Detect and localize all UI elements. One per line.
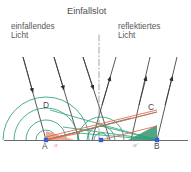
point-label-a: A (42, 142, 48, 151)
reflected-light-label: reflektiertes Licht (118, 22, 160, 40)
incident-ray-1-arrow (23, 57, 33, 91)
reflected-light-line2: Licht (118, 31, 135, 40)
reflected-ray-2-arrow (139, 78, 146, 105)
incident-light-line2: Licht (11, 31, 28, 40)
incident-light-label: einfallendes Licht (11, 22, 55, 40)
point-label-b: B (154, 142, 160, 151)
optics-diagram-figure: Einfallslot einfallendes Licht reflektie… (0, 0, 191, 172)
point-label-c: C (148, 103, 154, 112)
reflected-ray-1-arrow (102, 78, 110, 105)
angle-of-incidence-label: α (54, 142, 58, 150)
incident-ray-2-arrow (54, 57, 64, 89)
reflected-ray-3-arrow (165, 78, 172, 105)
point-marker-M (99, 138, 103, 142)
einfallslot-title-label: Einfallslot (67, 6, 106, 16)
angle-of-reflection-label: α' (133, 142, 138, 150)
reflected-light-line1: reflektiertes (118, 22, 160, 31)
incident-light-line1: einfallendes (11, 22, 55, 31)
reflected-ray-group (92, 57, 177, 140)
incident-ray-3-arrow (83, 57, 93, 88)
point-label-d: D (43, 101, 49, 110)
